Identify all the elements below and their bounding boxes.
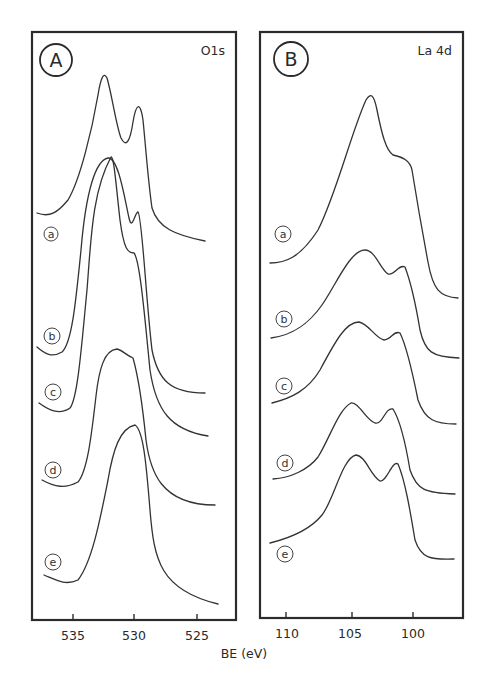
curve-b-o1s (37, 158, 205, 393)
tick-label-535: 535 (61, 628, 85, 643)
xps-figure: A O1s a b c d e 535 530 525 (0, 0, 489, 684)
tick-label-100: 100 (401, 626, 425, 641)
tick-label-530: 530 (122, 628, 146, 643)
tick-label-525: 525 (185, 628, 209, 643)
curve-label-c: c (281, 380, 287, 393)
curve-c-la4d (272, 322, 456, 424)
curve-a-la4d (270, 96, 458, 298)
curve-a-o1s (37, 75, 205, 241)
tick-label-105: 105 (338, 626, 362, 641)
panel-a-frame (32, 32, 236, 620)
panel-a: A O1s a b c d e 535 530 525 (32, 32, 236, 643)
curve-e-la4d (270, 455, 454, 559)
panel-b-frame (260, 32, 463, 618)
curve-label-a: a (280, 228, 287, 241)
curve-label-e: e (50, 556, 57, 569)
curve-b-la4d (271, 250, 459, 358)
curve-e-o1s (44, 425, 218, 604)
curve-label-b: b (49, 330, 56, 343)
curve-c-o1s (39, 157, 208, 436)
panel-b-title: La 4d (418, 43, 453, 58)
panel-a-letter: A (50, 49, 63, 71)
curve-label-e: e (282, 548, 289, 561)
curve-label-d: d (50, 464, 57, 477)
x-axis-label: BE (eV) (221, 646, 267, 661)
tick-label-110: 110 (275, 626, 299, 641)
curve-labels-b: a b c d e (275, 226, 293, 562)
curve-label-d: d (282, 457, 289, 470)
panel-b: B La 4d a b c d e 110 105 100 (260, 32, 463, 641)
curve-labels-a: a b c d e (44, 227, 61, 570)
curve-label-a: a (48, 228, 55, 241)
curve-label-b: b (281, 313, 288, 326)
panel-b-letter: B (284, 48, 297, 70)
curve-d-o1s (42, 349, 215, 505)
panel-a-title: O1s (201, 43, 225, 58)
curve-label-c: c (50, 386, 56, 399)
